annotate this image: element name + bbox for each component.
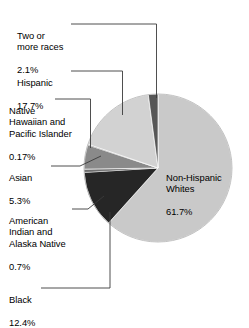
leader-line-two-or-more-races (71, 24, 157, 98)
slice-label-non-hispanic-whites-name: Non-Hispanic Whites (166, 172, 222, 195)
slice-label-non-hispanic-whites-value: 61.7% (166, 206, 192, 217)
callout-american-indian-value: 0.7% (9, 261, 30, 272)
callout-asian: Asian 5.3% (9, 160, 32, 206)
callout-native-hawaiian: Native Hawaiian and Pacific Islander 0.1… (9, 93, 72, 163)
callout-black-name: Black (9, 294, 32, 305)
callout-american-indian-name: American Indian and Alaska Native (9, 215, 66, 249)
callout-two-or-more-races-name: Two or more races (17, 30, 63, 53)
slice-label-non-hispanic-whites: Non-Hispanic Whites 61.7% (166, 160, 222, 218)
callout-american-indian: American Indian and Alaska Native 0.7% (9, 203, 66, 273)
callout-black-value: 12.4% (9, 317, 35, 328)
callout-native-hawaiian-name: Native Hawaiian and Pacific Islander (9, 105, 72, 139)
callout-black: Black 12.4% (9, 282, 35, 328)
callout-asian-name: Asian (9, 172, 32, 183)
callout-hispanic-name: Hispanic (17, 77, 53, 88)
